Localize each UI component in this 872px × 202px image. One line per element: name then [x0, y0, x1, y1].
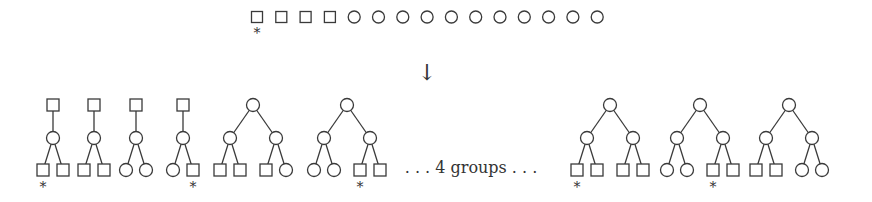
top-row-sequence: * [252, 11, 604, 41]
chain-tree: * [37, 99, 69, 195]
diagram-canvas: * ↓ ***** . . . 4 groups . . . [0, 0, 872, 202]
circle-node [308, 164, 321, 177]
square-node [57, 164, 69, 176]
circle-node [328, 164, 341, 177]
circle-node [167, 164, 180, 177]
circle-node [604, 99, 617, 112]
circle-node [341, 99, 354, 112]
circle-node [421, 11, 433, 23]
circle-node [247, 99, 260, 112]
circle-node [627, 132, 640, 145]
groups-ellipsis-label: . . . 4 groups . . . [405, 158, 538, 177]
circle-node [581, 132, 594, 145]
circle-node [694, 99, 707, 112]
binary-tree: * [661, 99, 740, 196]
square-node [98, 164, 110, 176]
star-marker-icon: * [254, 25, 261, 41]
square-node [571, 164, 583, 176]
square-node [591, 164, 603, 176]
tree-groups: ***** [37, 99, 829, 196]
binary-tree [750, 99, 829, 177]
circle-node [120, 164, 133, 177]
down-arrow-icon: ↓ [418, 60, 436, 85]
square-node [37, 164, 49, 176]
square-node [47, 99, 59, 111]
circle-node [88, 132, 101, 145]
circle-node [280, 164, 293, 177]
chain-tree [120, 99, 153, 177]
square-node [617, 164, 629, 176]
square-node [276, 12, 287, 23]
binary-tree: * [308, 99, 387, 196]
square-node [177, 99, 189, 111]
circle-node [671, 132, 684, 145]
star-marker-icon: * [190, 179, 197, 195]
circle-node [348, 11, 360, 23]
square-node [234, 164, 246, 176]
circle-node [567, 11, 579, 23]
circle-node [177, 132, 190, 145]
square-node [300, 12, 311, 23]
circle-node [140, 164, 153, 177]
circle-node [270, 132, 283, 145]
circle-node [796, 164, 809, 177]
square-node [374, 164, 386, 176]
chain-tree: * [167, 99, 200, 195]
star-marker-icon: * [357, 179, 364, 195]
square-node [637, 164, 649, 176]
square-node [750, 164, 762, 176]
circle-node [397, 11, 409, 23]
square-node [727, 164, 739, 176]
circle-node [373, 11, 385, 23]
circle-node [661, 164, 674, 177]
chain-tree [78, 99, 110, 176]
circle-node [224, 132, 237, 145]
star-marker-icon: * [574, 179, 581, 195]
square-node [78, 164, 90, 176]
square-node [252, 12, 263, 23]
circle-node [816, 164, 829, 177]
square-node [260, 164, 272, 176]
square-node [187, 164, 199, 176]
circle-node [783, 99, 796, 112]
square-node [354, 164, 366, 176]
square-node [770, 164, 782, 176]
square-node [214, 164, 226, 176]
circle-node [543, 11, 555, 23]
circle-node [494, 11, 506, 23]
circle-node [760, 132, 773, 145]
square-node [707, 164, 719, 176]
star-marker-icon: * [710, 179, 717, 195]
circle-node [364, 132, 377, 145]
circle-node [806, 132, 819, 145]
binary-tree [214, 99, 293, 177]
tree-grouping-diagram: * ↓ ***** . . . 4 groups . . . [0, 0, 872, 202]
circle-node [591, 11, 603, 23]
binary-tree: * [571, 99, 649, 196]
circle-node [47, 132, 60, 145]
circle-node [130, 132, 143, 145]
circle-node [518, 11, 530, 23]
circle-node [470, 11, 482, 23]
square-node [324, 12, 335, 23]
circle-node [445, 11, 457, 23]
circle-node [318, 132, 331, 145]
square-node [130, 99, 142, 111]
star-marker-icon: * [40, 179, 47, 195]
square-node [88, 99, 100, 111]
circle-node [681, 164, 694, 177]
circle-node [717, 132, 730, 145]
